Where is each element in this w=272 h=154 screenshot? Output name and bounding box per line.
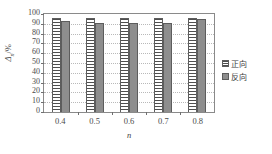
legend-item-label: 反向 [231,71,247,82]
y-axis-title-unit: /% [3,44,13,53]
y-axis-tick-labels: 1009080706050403020100 [14,12,40,113]
legend-item-label: 正向 [231,58,247,69]
bar-forward [86,18,95,112]
x-axis-tick-labels: 0.40.50.60.70.8 [43,116,215,128]
y-axis-tick-label: 90 [14,19,40,27]
y-axis-tick-label: 40 [14,68,40,76]
bar-reverse [129,23,138,112]
x-axis-tick-label: 0.7 [147,116,179,128]
bar-forward [154,18,163,112]
bar-reverse [61,21,70,112]
x-axis-tick-label: 0.5 [79,116,111,128]
y-axis-tick-label: 10 [14,97,40,105]
hatched-swatch [222,60,229,67]
x-axis-tick-label: 0.8 [182,116,214,128]
x-axis-tick-label: 0.6 [113,116,145,128]
bar-reverse [163,23,172,112]
bar-forward [120,18,129,112]
bar-reverse [95,23,104,112]
y-axis-tick-label: 30 [14,78,40,86]
plot-area [43,13,215,113]
legend-item: 反向 [222,70,270,83]
y-axis-tick-label: 20 [14,87,40,95]
bar-groups [44,14,214,112]
legend-item: 正向 [222,57,270,70]
bar-group [52,14,70,112]
y-axis-title-symbol: Δ [3,57,13,62]
bar-group [120,14,138,112]
bar-group [86,14,104,112]
solid-gray-swatch [222,73,229,80]
x-axis-tickmark [180,112,181,115]
x-axis-title: n [43,130,215,140]
x-axis-tickmark [146,112,147,115]
bar-forward [188,18,197,112]
bar-group [154,14,172,112]
x-axis-tick-label: 0.4 [44,116,76,128]
y-axis-tick-label: 0 [14,107,40,115]
x-axis-tickmark [112,112,113,115]
bar-forward [52,18,61,112]
y-axis-tick-label: 100 [14,9,40,17]
y-axis-tick-label: 50 [14,58,40,66]
x-axis-tickmark [78,112,79,115]
bar-reverse [197,19,206,112]
bar-chart-figure: Δn/% 1009080706050403020100 0.40.50.60.7… [0,0,272,154]
y-axis-tick-label: 60 [14,48,40,56]
chart-legend: 正向反向 [222,57,270,83]
bar-group [188,14,206,112]
y-axis-tick-label: 70 [14,38,40,46]
y-axis-tickmark [41,112,44,113]
y-axis-tick-label: 80 [14,29,40,37]
